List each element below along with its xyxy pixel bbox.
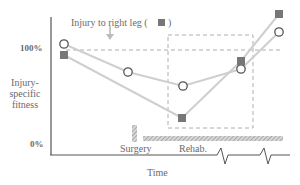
x-axis	[50, 148, 290, 164]
injury-annotation: Injury to right leg (	[71, 17, 148, 28]
circle-series-line	[64, 32, 279, 86]
circle-marker	[275, 28, 283, 36]
fitness-diagram: Injury to right leg ( ) 100% 0% Injury- …	[0, 0, 300, 185]
surgery-label: Surgery	[120, 143, 151, 154]
square-marker	[237, 57, 245, 65]
injury-annotation-text: Injury to right leg (	[71, 17, 148, 28]
y-axis-label-line3: fitness	[2, 99, 48, 110]
rehab-bar	[143, 136, 283, 141]
circle-marker	[179, 82, 187, 90]
square-series-line	[64, 14, 279, 118]
x-axis-label: Time	[147, 167, 168, 178]
surgery-bar	[132, 125, 137, 142]
injury-annotation-close-text: )	[168, 17, 171, 28]
injury-arrow-icon	[106, 26, 114, 40]
circle-marker	[124, 68, 132, 76]
y-axis-label-line1: Injury-	[2, 77, 48, 88]
rehab-label: Rehab.	[179, 143, 207, 154]
legend-square-icon	[158, 19, 165, 26]
square-marker	[60, 51, 68, 59]
y-tick-0: 0%	[30, 139, 44, 150]
square-marker	[275, 10, 283, 18]
injury-annotation-close: )	[168, 17, 171, 28]
circle-marker	[60, 40, 68, 48]
y-axis-label-line2: specific	[2, 88, 48, 99]
circle-marker	[237, 65, 245, 73]
circle-markers	[60, 28, 283, 90]
y-tick-100: 100%	[20, 43, 43, 54]
square-marker	[178, 114, 186, 122]
